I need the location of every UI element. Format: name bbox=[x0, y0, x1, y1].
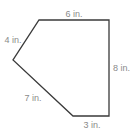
side-label-bottom: 3 in. bbox=[83, 120, 100, 130]
side-label-upper-left: 4 in. bbox=[4, 35, 21, 45]
side-label-lower-left: 7 in. bbox=[24, 93, 41, 103]
pentagon-diagram: 6 in. 8 in. 3 in. 7 in. 4 in. bbox=[0, 0, 137, 131]
side-label-right: 8 in. bbox=[113, 63, 130, 73]
side-label-top: 6 in. bbox=[65, 9, 82, 19]
